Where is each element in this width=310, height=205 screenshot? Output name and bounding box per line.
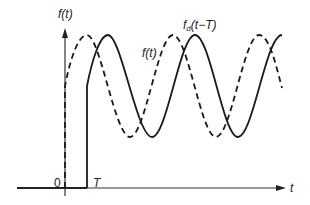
y-axis-arrow-icon <box>62 28 68 38</box>
delayed-curve-label: fd(t−T) <box>183 19 216 33</box>
delayed-label-arg: (t−T) <box>191 18 217 32</box>
delay-label: T <box>93 177 100 189</box>
original-signal-curve <box>65 35 282 188</box>
y-axis-label: f(t) <box>58 8 73 20</box>
origin-label: 0 <box>54 177 61 189</box>
time-delay-diagram <box>0 0 310 205</box>
original-curve-label: f(t) <box>142 47 157 59</box>
x-axis-label: t <box>290 182 293 194</box>
x-axis-arrow-icon <box>276 185 286 191</box>
